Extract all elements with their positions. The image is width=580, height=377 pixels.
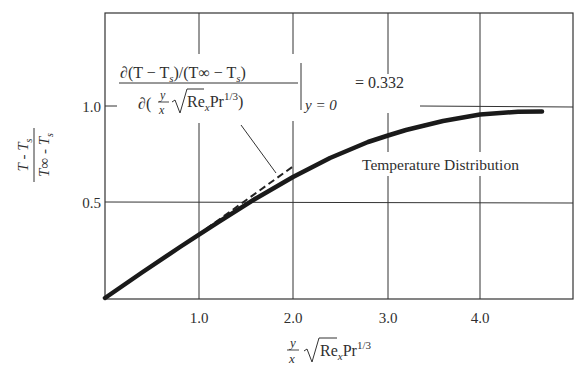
x-tick-3: 3.0 xyxy=(379,310,398,326)
x-tick-labels: 1.0 2.0 3.0 4.0 xyxy=(190,310,490,326)
x-label-y: y xyxy=(288,335,296,350)
x-tick-4: 4.0 xyxy=(471,310,490,326)
annotation-re: RexPr1/3) xyxy=(187,90,243,113)
grid-y-10 xyxy=(420,106,573,107)
temperature-distribution-curve xyxy=(105,111,542,298)
annotation-numerator: ∂(T − Ts)/(T∞ − Ts) xyxy=(120,64,246,84)
y-axis-label: T - Ts T∞ - Ts xyxy=(15,128,55,182)
x-label-re-pr: RexPr1/3 xyxy=(320,339,371,362)
annotation-eval-at: y = 0 xyxy=(303,97,337,113)
y-label-denominator: T∞ - Ts xyxy=(36,133,55,177)
grid-y-05 xyxy=(105,202,573,203)
x-axis-label: y x RexPr1/3 xyxy=(287,335,371,366)
y-tick-labels: 0.5 1.0 xyxy=(82,99,101,211)
x-tick-2: 2.0 xyxy=(284,310,303,326)
x-label-x: x xyxy=(288,351,295,366)
derivative-annotation: ∂(T − Ts)/(T∞ − Ts) ∂( y x RexPr1/3) y =… xyxy=(119,63,404,117)
y-tick-05: 0.5 xyxy=(82,195,101,211)
annotation-frac-x: x xyxy=(158,103,165,117)
y-tick-10: 1.0 xyxy=(82,99,101,115)
x-tick-1: 1.0 xyxy=(190,310,209,326)
annotation-denominator-open: ∂( xyxy=(138,95,151,113)
curve-label: Temperature Distribution xyxy=(362,156,519,173)
annotation-leader-line xyxy=(241,125,276,173)
y-label-numerator: T - Ts xyxy=(15,138,34,171)
chart: ∂(T − Ts)/(T∞ − Ts) ∂( y x RexPr1/3) y =… xyxy=(0,0,580,377)
annotation-frac-y: y xyxy=(159,88,166,102)
annotation-equals-value: = 0.332 xyxy=(355,74,404,91)
